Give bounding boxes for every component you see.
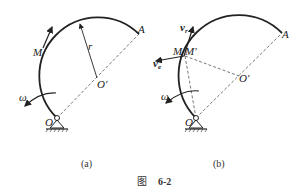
label-o-prime: O' — [239, 72, 250, 84]
circular-tube-arc — [179, 15, 282, 118]
caption-a: (a) — [81, 158, 92, 170]
label-v-r: vr — [180, 21, 188, 35]
label-m: M — [172, 45, 183, 57]
label-o-prime: O' — [97, 78, 108, 90]
caption-prefix: 图 — [137, 176, 147, 187]
panel-a: M r A O' O ω (a) — [19, 17, 145, 170]
label-a: A — [137, 23, 145, 35]
label-omega: ω — [161, 90, 169, 102]
diameter-dashed-line — [57, 34, 139, 118]
om-dashed-line — [185, 56, 196, 118]
caption-number: 6-2 — [158, 176, 171, 187]
label-a: A — [281, 28, 289, 40]
label-o: O — [45, 116, 53, 128]
label-o: O — [185, 116, 193, 128]
label-v-e: ve — [153, 57, 161, 71]
figure-caption: 图 6-2 — [137, 176, 171, 187]
circular-tube-arc — [39, 17, 139, 118]
figure-canvas: M r A O' O ω (a) vr ve M M' A O' O — [0, 0, 304, 196]
label-omega: ω — [19, 91, 27, 103]
label-r: r — [88, 40, 93, 52]
label-m: M — [32, 46, 43, 58]
caption-b: (b) — [213, 158, 225, 170]
panel-b: vr ve M M' A O' O ω (b) — [153, 15, 289, 170]
label-m-prime: M' — [184, 45, 197, 57]
omega-arrow — [25, 93, 56, 106]
radius-dashed-line — [185, 56, 239, 76]
